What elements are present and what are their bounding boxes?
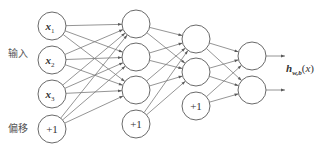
- connection-arrow: [65, 31, 123, 52]
- connections: [61, 24, 285, 123]
- neuron-label: +1: [130, 118, 142, 130]
- neuron-circle: [122, 10, 150, 38]
- hidden-2-node: [182, 58, 210, 86]
- hidden-1-bias-node: +1: [122, 110, 150, 138]
- output-node: [238, 76, 266, 104]
- neuron-circle: [238, 42, 266, 70]
- neuron-circle: [122, 43, 150, 71]
- connection-arrow: [144, 50, 188, 112]
- hidden-1-node: [122, 76, 150, 104]
- connection-arrow: [65, 65, 123, 86]
- neuron-circle: [122, 76, 150, 104]
- input-node: x1: [38, 12, 66, 40]
- hidden-1-node: [122, 43, 150, 71]
- connection-arrow: [150, 27, 183, 35]
- connection-arrow: [147, 48, 186, 81]
- connection-arrow: [209, 43, 238, 52]
- hidden-2-node: [182, 25, 210, 53]
- input-node: x3: [38, 80, 66, 108]
- hidden-2-bias-node: +1: [182, 92, 210, 120]
- neuron-label: +1: [190, 100, 202, 112]
- output-node: [238, 42, 266, 70]
- input-bias-node: +1: [38, 115, 66, 143]
- connection-arrow: [61, 35, 128, 118]
- neuron-circle: [38, 46, 66, 74]
- connection-arrow: [147, 81, 186, 115]
- connection-arrow: [209, 60, 238, 68]
- input-node: x2: [38, 46, 66, 74]
- input-label: 输入: [8, 45, 28, 60]
- output-paren-close: ): [310, 62, 314, 74]
- neural-network-diagram: x1x2x3+1+1+1: [0, 0, 324, 145]
- neuron-circle: [182, 25, 210, 53]
- connection-arrow: [66, 24, 122, 25]
- bias-label: 偏移: [8, 120, 28, 135]
- connection-arrow: [206, 65, 241, 96]
- neuron-circle: [238, 76, 266, 104]
- connection-arrow: [149, 43, 182, 53]
- connection-arrow: [209, 94, 238, 102]
- output-subscript: w,b: [292, 69, 302, 77]
- output-function-label: hw,b(x): [286, 62, 314, 74]
- neuron-circle: [38, 12, 66, 40]
- neuron-label: +1: [46, 123, 58, 135]
- connection-arrow: [206, 48, 241, 80]
- neuron-circle: [182, 58, 210, 86]
- hidden-1-node: [122, 10, 150, 38]
- neuron-circle: [38, 80, 66, 108]
- connection-arrow: [65, 96, 124, 123]
